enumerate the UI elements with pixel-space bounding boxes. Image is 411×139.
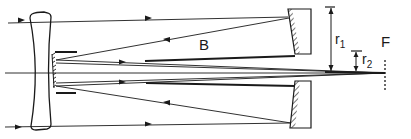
meniscus-lens — [30, 12, 51, 130]
r1-dimension — [325, 7, 335, 71]
focus-bundle — [325, 72, 385, 73]
primary-mirror-bottom — [290, 81, 311, 128]
optical-diagram — [0, 0, 411, 139]
label-b: B — [199, 37, 209, 52]
label-r1-sub: 1 — [340, 39, 346, 50]
reflected-rays — [56, 18, 291, 123]
primary-mirror-top — [288, 9, 311, 54]
label-r2-sub: 2 — [367, 59, 373, 70]
r2-dimension — [351, 51, 362, 71]
arrowheads — [15, 16, 170, 130]
label-r1: r1 — [335, 32, 345, 50]
label-r2: r2 — [362, 52, 372, 70]
label-f: F — [381, 34, 390, 49]
